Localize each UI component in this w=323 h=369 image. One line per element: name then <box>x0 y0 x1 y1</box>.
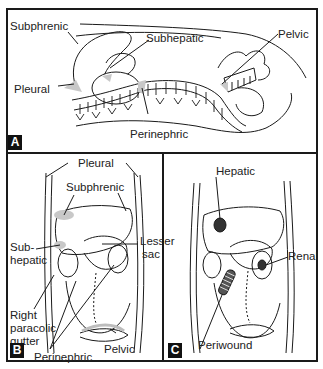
label-pleural: Pleural <box>78 157 114 169</box>
label-pelvic: Pelvic <box>278 28 309 40</box>
label-perinephric: Perinephric <box>130 128 188 140</box>
label-renal: Renal <box>288 250 318 262</box>
label-periwound: Periwound <box>198 339 252 351</box>
label-pleural: Pleural <box>14 83 50 95</box>
label-subphrenic: Subphrenic <box>66 181 124 193</box>
label-pelvic: Pelvic <box>104 343 135 355</box>
panel-a-badge: A <box>8 135 22 150</box>
label-hepatic: Hepatic <box>216 165 255 177</box>
label-right-paracolic-line1: Right <box>10 309 37 321</box>
label-subhepatic-line1: Sub- <box>10 241 34 253</box>
label-perinephric: Perinephric <box>34 351 92 363</box>
panel-b-frontal-view: Pleural Subphrenic Lesser sac Sub- hepat… <box>6 153 164 362</box>
panel-a-lateral-view: Subphrenic Subhepatic Pleural Perinephri… <box>6 8 318 154</box>
label-right-paracolic-line2: paracolic <box>10 322 56 334</box>
panel-c-badge: C <box>168 343 182 358</box>
label-subhepatic-line2: hepatic <box>10 254 47 266</box>
label-subhepatic: Subhepatic <box>146 32 204 44</box>
label-subphrenic: Subphrenic <box>10 20 68 32</box>
label-lesser-sac-line2: sac <box>142 248 160 260</box>
panel-b-badge: B <box>10 343 24 358</box>
panel-c-frontal-view: Hepatic Renal Periwound C <box>162 153 318 362</box>
